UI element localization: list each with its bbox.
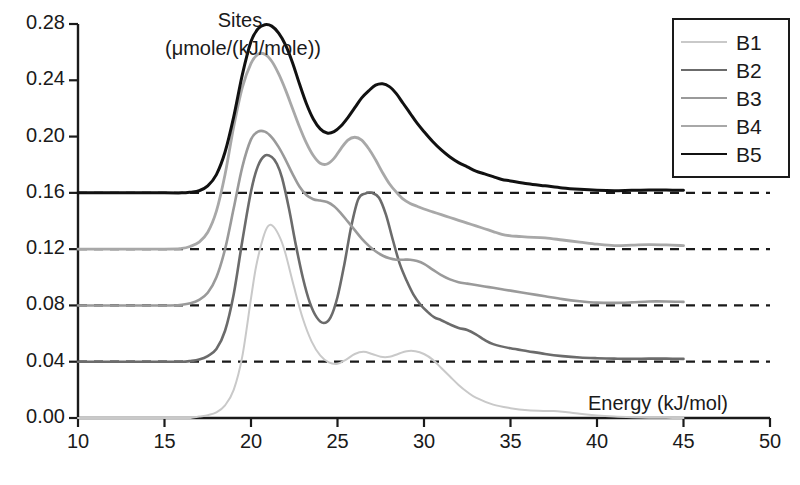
y-tick-label: 0.24 xyxy=(26,67,65,90)
y-tick-label: 0.00 xyxy=(26,405,65,428)
legend-item-b3[interactable]: B3 xyxy=(674,84,788,112)
chart-legend: B1B2B3B4B5 xyxy=(672,18,790,178)
legend-item-b5[interactable]: B5 xyxy=(674,140,788,168)
y-tick-label: 0.04 xyxy=(26,349,65,372)
x-tick-label: 35 xyxy=(481,430,541,453)
legend-swatch-b1 xyxy=(681,41,727,43)
x-axis-title: Energy (kJ/mol) xyxy=(588,392,728,415)
y-tick-label: 0.12 xyxy=(26,236,65,259)
y-axis-title-line2: (μmole/(kJ/mole)) xyxy=(108,36,378,60)
legend-label: B5 xyxy=(736,144,762,165)
legend-label: B4 xyxy=(736,116,762,137)
legend-item-b1[interactable]: B1 xyxy=(674,28,788,56)
y-axis-title-line1: Sites xyxy=(150,8,330,32)
y-tick-label: 0.16 xyxy=(26,180,65,203)
legend-swatch-b3 xyxy=(681,97,727,99)
y-tick-label: 0.08 xyxy=(26,292,65,315)
x-tick-label: 45 xyxy=(654,430,714,453)
legend-label: B2 xyxy=(736,60,762,81)
x-tick-label: 25 xyxy=(308,430,368,453)
legend-item-b4[interactable]: B4 xyxy=(674,112,788,140)
x-tick-label: 50 xyxy=(740,430,800,453)
x-tick-label: 40 xyxy=(567,430,627,453)
legend-swatch-b4 xyxy=(681,125,727,127)
y-tick-label: 0.28 xyxy=(26,11,65,34)
legend-label: B3 xyxy=(736,88,762,109)
legend-item-b2[interactable]: B2 xyxy=(674,56,788,84)
chart-root: Sites (μmole/(kJ/mole)) Energy (kJ/mol) … xyxy=(0,0,800,485)
x-tick-label: 20 xyxy=(221,430,281,453)
x-tick-label: 30 xyxy=(394,430,454,453)
legend-label: B1 xyxy=(736,32,762,53)
legend-swatch-b2 xyxy=(681,69,727,71)
y-tick-label: 0.20 xyxy=(26,124,65,147)
legend-swatch-b5 xyxy=(681,153,727,155)
x-tick-label: 10 xyxy=(48,430,108,453)
x-tick-label: 15 xyxy=(135,430,195,453)
